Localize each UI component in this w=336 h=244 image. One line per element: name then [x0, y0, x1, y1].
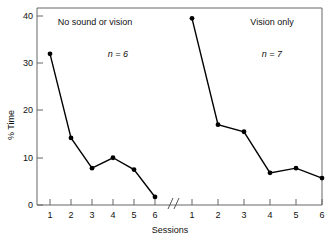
y-tick-label-0: 0: [28, 200, 33, 210]
left-x-tick-1: 1: [47, 210, 52, 220]
left-panel-point-6: [153, 195, 158, 200]
left-x-tick-3: 3: [89, 210, 94, 220]
y-tick-label-30: 30: [23, 58, 33, 68]
left-panel-point-5: [132, 167, 137, 172]
right-x-tick-1: 1: [189, 210, 194, 220]
left-x-tick-6: 6: [152, 210, 157, 220]
y-tick-label-10: 10: [23, 153, 33, 163]
right-panel-point-5: [294, 166, 299, 171]
left-panel-point-4: [111, 155, 116, 160]
right-x-tick-2: 2: [215, 210, 220, 220]
left-panel-point-1: [48, 51, 53, 56]
left-panel-n-label: n = 6: [108, 49, 128, 59]
left-x-tick-2: 2: [68, 210, 73, 220]
right-panel-point-3: [242, 129, 247, 134]
left-x-axis-ticks: [50, 199, 155, 205]
right-panel-line: [192, 18, 322, 178]
left-x-tick-5: 5: [131, 210, 136, 220]
right-panel-point-4: [268, 170, 273, 175]
right-x-axis-ticks: [192, 199, 322, 205]
left-x-tick-4: 4: [110, 210, 115, 220]
left-panel-condition-label: No sound or vision: [58, 17, 133, 27]
chart-figure: 0 10 20 30 40 % Time 1 2 3 4 5 6: [0, 0, 336, 244]
y-tick-label-40: 40: [23, 11, 33, 21]
data-series-layer: [48, 16, 325, 199]
right-x-tick-5: 5: [293, 210, 298, 220]
y-axis-label: % Time: [6, 110, 16, 140]
plot-frame: [37, 8, 322, 205]
left-panel-point-3: [90, 166, 95, 171]
right-x-tick-4: 4: [267, 210, 272, 220]
x-axis-label: Sessions: [152, 225, 189, 235]
right-panel-n-label: n = 7: [262, 49, 283, 59]
left-panel-line: [50, 54, 155, 197]
line-chart-svg: 0 10 20 30 40 % Time 1 2 3 4 5 6: [0, 0, 336, 244]
right-panel-point-2: [216, 122, 221, 127]
left-panel-point-2: [69, 136, 74, 141]
right-panel-point-1: [190, 16, 195, 21]
y-axis-ticks: [37, 16, 43, 205]
right-x-tick-6: 6: [319, 210, 324, 220]
right-panel-condition-label: Vision only: [250, 17, 294, 27]
axis-break-icon: [168, 198, 179, 209]
right-panel-point-6: [320, 176, 325, 181]
y-tick-label-20: 20: [23, 105, 33, 115]
right-x-tick-3: 3: [241, 210, 246, 220]
